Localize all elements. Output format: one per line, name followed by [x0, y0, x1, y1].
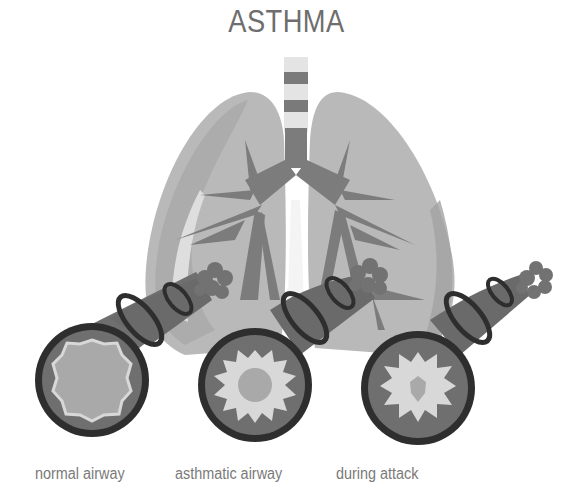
label-asthmatic-airway: asthmatic airway: [175, 465, 282, 483]
trachea: [284, 57, 308, 168]
label-during-attack: during attack: [336, 465, 418, 483]
lumen-normal: [53, 340, 131, 421]
alveoli-cluster: [516, 261, 553, 299]
label-normal-airway: normal airway: [35, 465, 125, 483]
asthma-illustration: [0, 0, 573, 496]
